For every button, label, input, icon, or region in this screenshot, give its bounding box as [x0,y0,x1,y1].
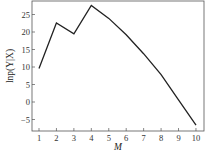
y-axis-title: lnp(Y|X) [5,49,16,83]
x-tick-label: 2 [54,133,58,143]
y-tick-label: 25 [22,10,31,20]
line-chart: −50510152025 12345678910 M lnp(Y|X) [0,0,207,155]
y-tick-label: 5 [26,80,30,90]
y-axis-ticks: −50510152025 [21,10,35,125]
x-tick-label: 7 [142,133,146,143]
y-tick-label: 20 [22,27,31,37]
data-line [39,5,196,125]
x-tick-label: 9 [176,133,180,143]
x-axis-ticks: 12345678910 [37,128,200,143]
x-tick-label: 4 [89,133,94,143]
plot-frame [32,1,204,131]
x-tick-label: 3 [72,133,76,143]
x-tick-label: 8 [159,133,163,143]
x-axis-title: M [113,142,123,152]
y-tick-label: 10 [22,62,31,72]
x-tick-label: 10 [192,133,201,143]
y-tick-label: 0 [26,97,30,107]
y-tick-label: −5 [21,115,30,125]
x-tick-label: 1 [37,133,41,143]
x-tick-label: 5 [107,133,111,143]
x-tick-label: 6 [124,133,128,143]
y-tick-label: 15 [22,45,31,55]
